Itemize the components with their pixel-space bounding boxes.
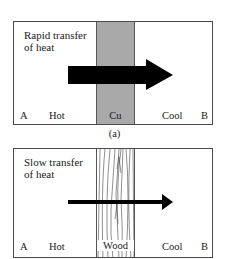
end-label-a: A [20,110,28,121]
end-label-b: B [201,110,208,121]
panel-wood-slow-transfer: Wood Slow transfer of heat A Hot Cool B [13,148,213,258]
end-label-b: B [201,241,208,252]
caption-a: (a) [0,128,229,139]
cool-label: Cool [162,241,182,252]
panel-b-title: Slow transfer of heat [24,156,83,180]
copper-strip: Cu [96,22,135,124]
cool-label: Cool [162,110,182,121]
panel-a-title: Rapid transfer of heat [24,29,87,53]
wood-strip: Wood [96,149,135,257]
hot-label: Hot [49,241,65,252]
material-label-wood: Wood [97,240,134,251]
panel-copper-rapid-transfer: Cu Rapid transfer of heat A Hot Cool B [13,21,213,125]
material-label-cu: Cu [97,110,134,121]
end-label-a: A [20,241,28,252]
hot-label: Hot [49,110,65,121]
